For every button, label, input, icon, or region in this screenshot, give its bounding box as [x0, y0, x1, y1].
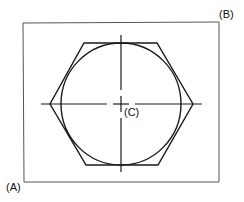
label-center-c: (C) [124, 106, 139, 118]
label-corner-b: (B) [219, 8, 234, 20]
hexagon-diagram: (B) (A) (C) [0, 0, 244, 202]
label-corner-a: (A) [6, 181, 21, 193]
